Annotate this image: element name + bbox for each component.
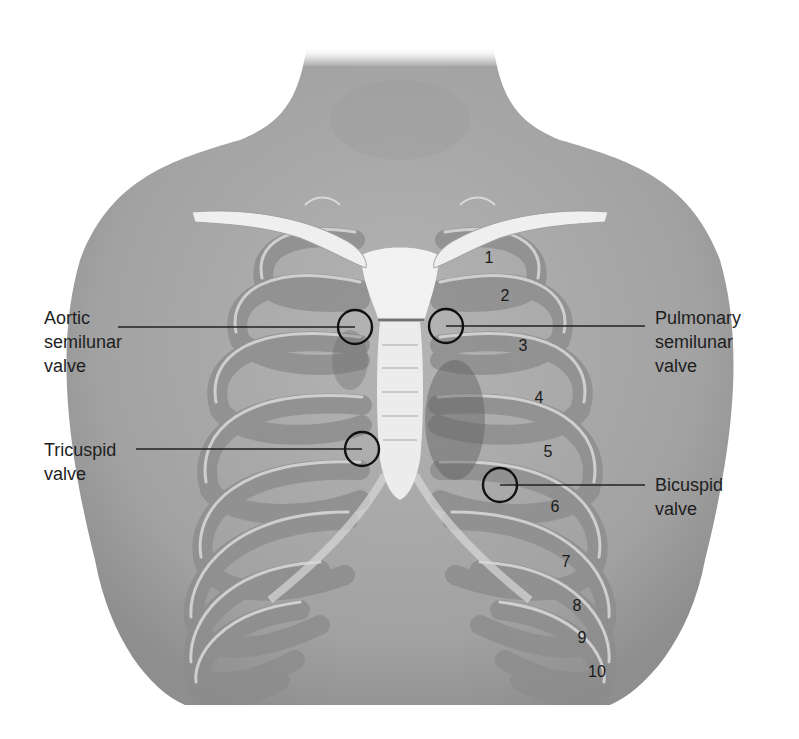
aortic-label-line: semilunar [44, 330, 122, 354]
rib-number-9: 9 [578, 629, 587, 647]
rib-number-2: 2 [501, 287, 510, 305]
pulmonary-label-line: semilunar [655, 330, 741, 354]
tricuspid-label-line: Tricuspid [44, 438, 116, 462]
rib-number-7: 7 [562, 553, 571, 571]
aortic-valve-label: Aorticsemilunarvalve [44, 306, 122, 378]
rib-number-4: 4 [535, 389, 544, 407]
bicuspid-valve-label: Bicuspidvalve [655, 473, 723, 521]
rib-number-3: 3 [519, 337, 528, 355]
chest-anatomy-figure: AorticsemilunarvalvePulmonarysemilunarva… [0, 0, 799, 739]
rib-number-10: 10 [588, 663, 606, 681]
tricuspid-valve-label: Tricuspidvalve [44, 438, 116, 486]
rib-number-5: 5 [544, 443, 553, 461]
rib-number-1: 1 [485, 249, 494, 267]
pulmonary-valve-label: Pulmonarysemilunarvalve [655, 306, 741, 378]
aortic-label-line: valve [44, 354, 122, 378]
rib-number-8: 8 [573, 597, 582, 615]
pulmonary-label-line: Pulmonary [655, 306, 741, 330]
bicuspid-label-line: Bicuspid [655, 473, 723, 497]
tricuspid-label-line: valve [44, 462, 116, 486]
rib-number-6: 6 [551, 498, 560, 516]
aortic-label-line: Aortic [44, 306, 122, 330]
bicuspid-label-line: valve [655, 497, 723, 521]
pulmonary-label-line: valve [655, 354, 741, 378]
